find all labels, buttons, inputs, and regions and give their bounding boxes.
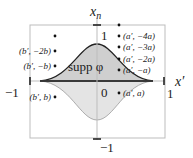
point-label: (a′, −a) <box>123 65 151 75</box>
point-dot <box>118 35 121 38</box>
point-label: (a′, −2a) <box>123 54 155 64</box>
x-axis-label: x′ <box>174 74 185 89</box>
point-label: (b′, −b) <box>23 61 51 71</box>
point-label: (b′, b) <box>30 92 51 102</box>
point-dot <box>54 50 57 53</box>
point-label: (a′, −3a) <box>123 42 155 52</box>
tick-label-y-neg: −1 <box>100 140 114 155</box>
point-label: (a′, a) <box>123 88 144 98</box>
tick-label-x-pos: 1 <box>167 86 174 101</box>
point-label: (b′, −2b) <box>19 46 51 56</box>
point-dot <box>118 46 121 49</box>
point-dot <box>118 92 121 95</box>
point-dot <box>118 69 121 72</box>
left-points: (b′, −2b) (b′, −b) (b′, b) <box>19 35 56 102</box>
tick-label-y-pos: 1 <box>101 28 108 43</box>
point-dot <box>54 96 57 99</box>
point-dot <box>54 35 57 38</box>
support-label: supp φ <box>68 59 103 74</box>
point-dot <box>54 65 57 68</box>
tick-label-x-neg: −1 <box>5 85 19 100</box>
point-dot <box>118 58 121 61</box>
point-label: (a′, −4a) <box>123 31 155 41</box>
point-dot <box>118 24 121 27</box>
origin-label: 0 <box>101 85 108 100</box>
support-diagram: xn x′ 1 −1 −1 1 0 supp φ (b′, −2b) (b′, … <box>0 0 193 158</box>
y-axis-label: xn <box>89 4 101 21</box>
